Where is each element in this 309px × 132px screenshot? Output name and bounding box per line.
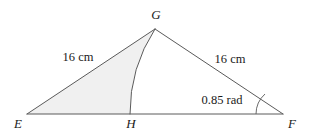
- vertex-label-F: F: [287, 116, 297, 131]
- geometry-figure: G E H F 16 cm 16 cm 0.85 rad: [0, 0, 309, 132]
- vertex-label-E: E: [13, 116, 22, 131]
- length-label-GF: 16 cm: [215, 52, 246, 66]
- vertex-label-H: H: [125, 116, 136, 131]
- length-label-EG: 16 cm: [63, 50, 94, 64]
- angle-label-F: 0.85 rad: [202, 93, 244, 107]
- vertex-label-G: G: [151, 7, 161, 22]
- geometry-canvas: G E H F 16 cm 16 cm 0.85 rad: [0, 0, 309, 132]
